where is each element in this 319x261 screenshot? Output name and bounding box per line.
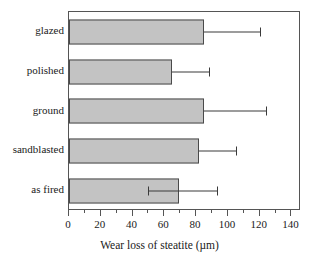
error-bar-cap-upper bbox=[260, 27, 261, 36]
error-bar-cap-upper bbox=[236, 147, 237, 156]
x-tick-minor bbox=[116, 210, 117, 213]
bar-row bbox=[69, 52, 299, 92]
x-tick-major bbox=[290, 210, 291, 216]
x-tick-minor bbox=[243, 210, 244, 213]
x-tick-minor bbox=[179, 210, 180, 213]
x-tick-major bbox=[100, 210, 101, 216]
bar bbox=[69, 59, 172, 84]
error-bar-line bbox=[204, 111, 266, 112]
x-tick-minor bbox=[275, 210, 276, 213]
bar bbox=[69, 99, 204, 124]
error-bar-cap-upper bbox=[266, 107, 267, 116]
error-bar-cap-upper bbox=[217, 187, 218, 196]
x-tick-major bbox=[163, 210, 164, 216]
x-tick-major bbox=[195, 210, 196, 216]
error-bar-line bbox=[199, 151, 236, 152]
y-axis-label: as fired bbox=[0, 184, 64, 195]
error-bar-line bbox=[172, 71, 209, 72]
bar bbox=[69, 139, 199, 164]
x-tick-minor bbox=[84, 210, 85, 213]
y-axis-label: ground bbox=[0, 105, 64, 116]
y-axis-label: polished bbox=[0, 65, 64, 76]
x-tick-major bbox=[259, 210, 260, 216]
x-tick-major bbox=[227, 210, 228, 216]
chart-figure: glazedpolishedgroundsandblastedas fired … bbox=[0, 0, 319, 261]
error-bar-line bbox=[204, 31, 260, 32]
bar-row bbox=[69, 171, 299, 211]
error-bar-cap-lower bbox=[148, 187, 149, 196]
x-axis-title: Wear loss of steatite (µm) bbox=[0, 238, 319, 252]
x-tick-label: 140 bbox=[270, 218, 310, 230]
bar bbox=[69, 19, 204, 44]
y-axis-label: glazed bbox=[0, 25, 64, 36]
plot-area bbox=[68, 11, 300, 210]
bar-row bbox=[69, 92, 299, 132]
bar-row bbox=[69, 12, 299, 52]
bar-row bbox=[69, 131, 299, 171]
x-tick-minor bbox=[147, 210, 148, 213]
x-tick-major bbox=[68, 210, 69, 216]
x-tick-minor bbox=[211, 210, 212, 213]
y-axis-label: sandblasted bbox=[0, 144, 64, 155]
error-bar-line bbox=[148, 191, 216, 192]
error-bar-cap-upper bbox=[209, 67, 210, 76]
x-tick-major bbox=[132, 210, 133, 216]
